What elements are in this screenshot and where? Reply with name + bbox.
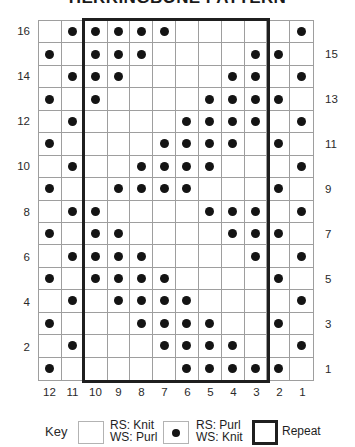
chart-cell-r8-c8 — [130, 201, 153, 223]
purl-dot-icon — [228, 229, 237, 238]
purl-dot-icon — [68, 296, 77, 305]
chart-cell-r9-c4 — [222, 178, 245, 200]
row-number-11: 11 — [325, 133, 355, 156]
chart-cell-r3-c3 — [245, 313, 268, 335]
chart-cell-r3-c5 — [199, 313, 222, 335]
column-number-7: 7 — [153, 386, 176, 399]
chart-cell-r14-c11 — [62, 66, 85, 88]
purl-dot-icon — [182, 319, 191, 328]
purl-dot-icon — [228, 364, 237, 373]
purl-dot-icon — [114, 296, 123, 305]
purl-dot-icon — [160, 139, 169, 148]
chart-cell-r13-c8 — [130, 88, 153, 110]
chart-cell-r16-c1 — [290, 21, 313, 43]
purl-dot-icon — [68, 252, 77, 261]
chart-cell-r10-c12 — [39, 156, 62, 178]
purl-dot-icon — [228, 72, 237, 81]
chart-cell-r15-c1 — [290, 43, 313, 65]
chart-cell-r16-c12 — [39, 21, 62, 43]
chart-cell-r3-c8 — [130, 313, 153, 335]
key-label: Key — [45, 424, 67, 439]
purl-dot-icon — [205, 162, 214, 171]
purl-dot-icon — [297, 252, 306, 261]
chart-cell-r2-c9 — [108, 335, 131, 357]
chart-cell-r7-c1 — [290, 223, 313, 245]
row-number-8: 8 — [0, 201, 30, 224]
column-number-5: 5 — [199, 386, 222, 399]
purl-dot-icon — [274, 184, 283, 193]
column-number-4: 4 — [222, 386, 245, 399]
purl-dot-icon — [137, 274, 146, 283]
chart-cell-r3-c6 — [176, 313, 199, 335]
chart-cell-r2-c2 — [267, 335, 290, 357]
chart-cell-r14-c2 — [267, 66, 290, 88]
chart-cell-r4-c11 — [62, 290, 85, 312]
chart-cell-r3-c4 — [222, 313, 245, 335]
chart-cell-r2-c11 — [62, 335, 85, 357]
purl-dot-icon — [91, 27, 100, 36]
chart-cell-r12-c2 — [267, 111, 290, 133]
chart-cell-r5-c8 — [130, 268, 153, 290]
column-number-8: 8 — [130, 386, 153, 399]
chart-cell-r15-c2 — [267, 43, 290, 65]
chart-cell-r7-c5 — [199, 223, 222, 245]
chart-cell-r16-c8 — [130, 21, 153, 43]
chart-cell-r6-c5 — [199, 245, 222, 267]
row-number-9: 9 — [325, 178, 355, 201]
row-number-4: 4 — [0, 291, 30, 314]
purl-dot-icon — [160, 162, 169, 171]
chart-cell-r9-c7 — [153, 178, 176, 200]
purl-dot-icon — [274, 319, 283, 328]
chart-cell-r7-c11 — [62, 223, 85, 245]
chart-cell-r8-c1 — [290, 201, 313, 223]
chart-cell-r6-c2 — [267, 245, 290, 267]
column-number-2: 2 — [268, 386, 291, 399]
purl-dot-icon — [114, 50, 123, 59]
chart-cell-r16-c11 — [62, 21, 85, 43]
chart-cell-r10-c10 — [85, 156, 108, 178]
chart-cell-r6-c4 — [222, 245, 245, 267]
purl-dot-icon — [251, 117, 260, 126]
chart-cell-r14-c6 — [176, 66, 199, 88]
chart-cell-r3-c11 — [62, 313, 85, 335]
chart-cell-r4-c12 — [39, 290, 62, 312]
chart-cell-r2-c1 — [290, 335, 313, 357]
chart-cell-r10-c2 — [267, 156, 290, 178]
chart-cell-r15-c5 — [199, 43, 222, 65]
purl-dot-icon — [160, 27, 169, 36]
chart-cell-r12-c6 — [176, 111, 199, 133]
chart-cell-r9-c5 — [199, 178, 222, 200]
purl-dot-icon — [45, 184, 54, 193]
purl-dot-icon — [297, 296, 306, 305]
chart-cell-r6-c8 — [130, 245, 153, 267]
chart-cell-r5-c11 — [62, 268, 85, 290]
purl-dot-icon — [274, 139, 283, 148]
purl-dot-icon — [205, 319, 214, 328]
chart-cell-r13-c7 — [153, 88, 176, 110]
chart-cell-r12-c7 — [153, 111, 176, 133]
chart-cell-r5-c10 — [85, 268, 108, 290]
chart-cell-r12-c12 — [39, 111, 62, 133]
chart-cell-r12-c1 — [290, 111, 313, 133]
chart-cell-r1-c6 — [176, 358, 199, 380]
stitch-chart-grid — [38, 20, 314, 381]
purl-dot-icon — [251, 50, 260, 59]
purl-dot-icon — [91, 72, 100, 81]
chart-cell-r5-c12 — [39, 268, 62, 290]
purl-dot-icon — [228, 117, 237, 126]
chart-cell-r5-c4 — [222, 268, 245, 290]
chart-cell-r6-c6 — [176, 245, 199, 267]
chart-cell-r7-c4 — [222, 223, 245, 245]
purl-dot-icon — [114, 184, 123, 193]
column-number-3: 3 — [245, 386, 268, 399]
purl-dot-icon — [137, 252, 146, 261]
chart-cell-r13-c9 — [108, 88, 131, 110]
knit-ws-line: WS: Purl — [110, 432, 157, 444]
purl-dot-icon — [68, 117, 77, 126]
chart-cell-r15-c12 — [39, 43, 62, 65]
chart-cell-r5-c1 — [290, 268, 313, 290]
row-number-3: 3 — [325, 313, 355, 336]
purl-dot-icon — [182, 139, 191, 148]
row-number-16: 16 — [0, 20, 30, 43]
purl-dot-icon — [205, 341, 214, 350]
